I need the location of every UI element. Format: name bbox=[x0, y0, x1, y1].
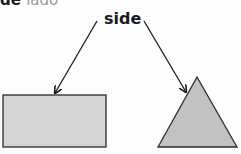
triangle-shape bbox=[158, 77, 237, 147]
shapes-diagram bbox=[0, 0, 241, 154]
arrow-to-triangle bbox=[144, 21, 186, 92]
rectangle-shape bbox=[3, 95, 106, 147]
arrow-to-rectangle bbox=[55, 21, 97, 93]
